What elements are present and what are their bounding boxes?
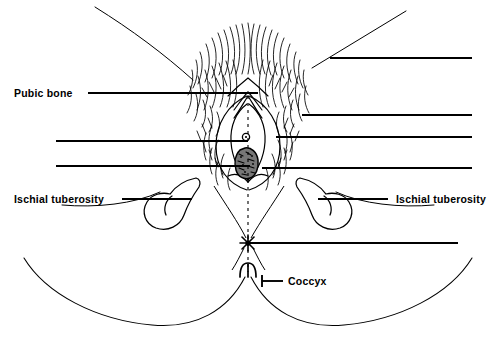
perineal-outline-group (214, 186, 284, 270)
perineum-right-contour (251, 186, 284, 238)
perineum-left-contour (214, 186, 246, 238)
buttock-curve-left (24, 258, 245, 326)
pointer-top-left (95, 7, 193, 80)
figure-canvas (0, 0, 495, 345)
label-coccyx: Coccyx (288, 276, 327, 287)
ischial-tuberosity-left-bulb (144, 178, 200, 229)
label-pubic-bone: Pubic bone (14, 88, 73, 99)
buttock-curve-right (251, 258, 472, 326)
vaginal-opening (235, 148, 258, 179)
label-ischial-tuberosity-right: Ischial tuberosity (396, 194, 486, 205)
pointer-top-right (312, 11, 406, 68)
clitoral-hood (234, 96, 262, 118)
label-ischial-tuberosity-left: Ischial tuberosity (14, 194, 104, 205)
ischial-tuberosity-right-bulb (296, 178, 352, 229)
anatomical-figure: Pubic bone Ischial tuberosity Ischial tu… (0, 0, 495, 345)
labeled-leader-lines (88, 93, 388, 287)
